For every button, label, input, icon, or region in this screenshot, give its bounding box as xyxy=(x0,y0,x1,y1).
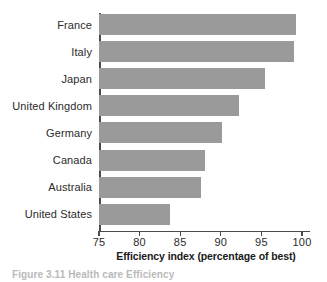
category-label: United Kingdom xyxy=(12,100,92,112)
bar xyxy=(99,150,205,171)
x-tick-label: 80 xyxy=(133,236,146,248)
bar-row: United Kingdom xyxy=(99,95,239,116)
bar-row: France xyxy=(99,14,296,35)
category-label: France xyxy=(57,19,92,31)
bar-row: Canada xyxy=(99,150,205,171)
bar xyxy=(99,68,265,89)
bar-row: Italy xyxy=(99,41,294,62)
bar xyxy=(99,95,239,116)
x-tick-label: 90 xyxy=(214,236,227,248)
category-label: United States xyxy=(25,208,92,220)
bar xyxy=(99,177,201,198)
x-tick-label: 95 xyxy=(255,236,268,248)
bar xyxy=(99,122,222,143)
bar xyxy=(99,41,294,62)
x-axis-title: Efficiency index (percentage of best) xyxy=(99,250,313,262)
bar xyxy=(99,204,170,225)
category-label: Italy xyxy=(71,46,92,58)
bar-row: United States xyxy=(99,204,170,225)
bar-row: Japan xyxy=(99,68,265,89)
x-tick-label: 85 xyxy=(174,236,187,248)
bar-row: Australia xyxy=(99,177,201,198)
category-label: Canada xyxy=(53,154,92,166)
category-label: Germany xyxy=(46,127,92,139)
category-label: Australia xyxy=(48,181,92,193)
category-label: Japan xyxy=(62,73,92,85)
bar xyxy=(99,14,296,35)
chart-figure: 7580859095100 FranceItalyJapanUnited Kin… xyxy=(0,0,327,282)
x-tick-label: 100 xyxy=(293,236,312,248)
figure-caption: Figure 3.11 Health care Efficiency xyxy=(12,269,174,282)
x-tick-label: 75 xyxy=(93,236,106,248)
bar-row: Germany xyxy=(99,122,222,143)
